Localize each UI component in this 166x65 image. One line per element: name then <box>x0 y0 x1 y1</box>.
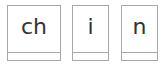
letter-tile-3[interactable]: n <box>121 5 158 61</box>
letter-tile-2[interactable]: i <box>72 5 109 61</box>
tile-divider <box>8 52 60 53</box>
tile-divider <box>122 52 157 53</box>
tile-letters: ch <box>8 16 60 38</box>
tile-letters: i <box>73 16 108 38</box>
tile-letters: n <box>122 16 157 38</box>
letter-tile-1[interactable]: ch <box>7 5 61 61</box>
tile-divider <box>73 52 108 53</box>
